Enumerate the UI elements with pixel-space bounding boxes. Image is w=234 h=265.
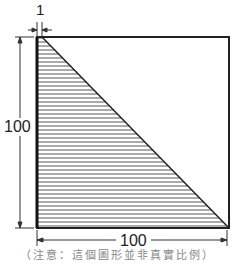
scale-note: （注意：這個圖形並非真實比例） bbox=[0, 246, 234, 262]
top-offset-label: 1 bbox=[36, 1, 44, 18]
hatched-triangle bbox=[37, 37, 229, 228]
figure-canvas bbox=[0, 0, 234, 265]
top-dimension-arrows bbox=[28, 22, 52, 36]
height-label: 100 bbox=[4, 118, 31, 136]
